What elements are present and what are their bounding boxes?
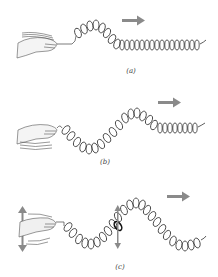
direction-arrow-icon bbox=[158, 98, 181, 108]
direction-arrow-icon bbox=[122, 16, 145, 26]
caption-c: (c) bbox=[100, 263, 140, 271]
spring-coils bbox=[60, 108, 205, 154]
panel-c: (c) bbox=[0, 180, 218, 277]
spring-pulse-diagram-a bbox=[0, 0, 218, 90]
caption-b: (b) bbox=[85, 158, 125, 166]
hand-icon bbox=[19, 214, 56, 245]
direction-arrow-icon bbox=[167, 192, 190, 202]
spring-compressed-coils bbox=[120, 40, 206, 50]
hand-icon bbox=[17, 125, 57, 150]
spring-wave-diagram-b bbox=[0, 90, 218, 180]
spring-coils bbox=[73, 20, 121, 50]
panel-b: (b) bbox=[0, 90, 218, 180]
hand-icon bbox=[17, 32, 57, 58]
panel-a: (a) bbox=[0, 0, 218, 90]
spring-coils bbox=[62, 198, 206, 251]
caption-a: (a) bbox=[111, 67, 151, 75]
